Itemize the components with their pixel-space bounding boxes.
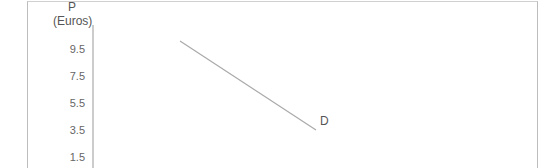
demand-curve-label: D <box>320 114 329 128</box>
demand-line <box>180 41 316 130</box>
plot-area <box>0 0 558 168</box>
